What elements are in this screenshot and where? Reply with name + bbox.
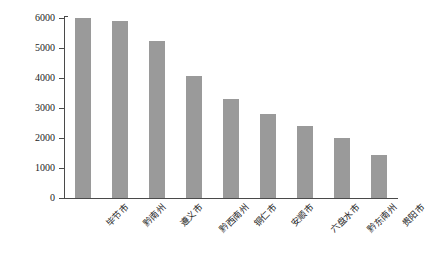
x-axis-label: 遵义市 — [179, 203, 204, 228]
bar — [186, 76, 202, 198]
x-axis-label: 黔东南州 — [367, 203, 399, 235]
bar — [75, 18, 91, 198]
x-axis-label: 六盘水市 — [330, 203, 362, 235]
y-tick-label: 4000 — [35, 73, 55, 83]
x-axis-label: 黔南州 — [142, 203, 167, 228]
x-axis-labels: 毕节市黔南州遵义市黔西南州铜仁市安顺市六盘水市黔东南州贵阳市 — [64, 201, 398, 261]
bar — [223, 99, 239, 198]
y-tick-label: 6000 — [35, 13, 55, 23]
y-tick-label: 3000 — [35, 103, 55, 113]
y-tick-label: 0 — [50, 193, 55, 203]
bar — [371, 155, 387, 198]
bar — [334, 138, 350, 198]
bar — [297, 126, 313, 198]
bar — [112, 21, 128, 198]
bars-group — [64, 16, 398, 199]
y-tick-label: 5000 — [35, 43, 55, 53]
bar — [260, 114, 276, 198]
x-axis-label: 黔西南州 — [218, 203, 250, 235]
x-axis-label: 毕节市 — [104, 203, 129, 228]
y-tick-label: 1000 — [35, 163, 55, 173]
x-axis-label: 铜仁市 — [253, 203, 278, 228]
bar — [149, 41, 165, 198]
y-tick-label: 2000 — [35, 133, 55, 143]
x-axis-label: 贵阳市 — [401, 203, 426, 228]
x-axis-label: 安顺市 — [290, 203, 315, 228]
